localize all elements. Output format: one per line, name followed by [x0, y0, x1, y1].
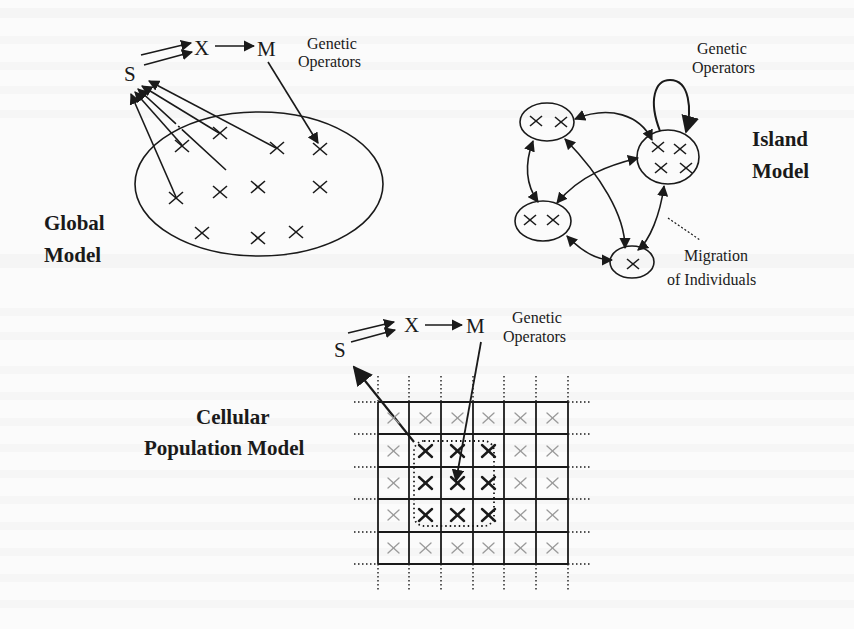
- global-model-title-1: Global: [44, 211, 105, 235]
- individual-marker: [270, 142, 284, 154]
- cell-grid: [378, 402, 568, 564]
- neighborhood-individual: [419, 477, 432, 489]
- neighborhood-individual: [482, 477, 495, 489]
- global-model-panel: [131, 43, 383, 256]
- individual-marker: [213, 186, 227, 198]
- individual-marker: [674, 144, 686, 154]
- cellular-op-s: S: [334, 338, 346, 362]
- cell-individual: [515, 478, 526, 488]
- global-individuals: [169, 127, 327, 244]
- individual-marker: [680, 163, 692, 173]
- migration-label-1: Migration: [684, 247, 748, 265]
- individual-marker: [555, 117, 567, 127]
- island-ops-label-1: Genetic: [697, 40, 747, 57]
- island-model-title-1: Island: [752, 127, 808, 151]
- individual-marker: [213, 127, 227, 139]
- cellular-ops-label-1: Genetic: [512, 309, 562, 326]
- individual-marker: [251, 181, 265, 193]
- island-top-left: [520, 103, 574, 141]
- individual-marker: [547, 215, 559, 225]
- migration-label-2: of Individuals: [667, 271, 756, 288]
- island-model-panel: [515, 80, 700, 278]
- individual-marker: [251, 232, 265, 244]
- cellular-ops-label-2: Operators: [503, 328, 566, 346]
- global-model-title-2: Model: [44, 243, 101, 267]
- individual-marker: [524, 215, 536, 225]
- global-op-s: S: [124, 62, 136, 86]
- individual-marker: [652, 142, 664, 152]
- cell-individual: [547, 510, 558, 520]
- cell-individual: [388, 510, 399, 520]
- global-op-x: X: [194, 36, 209, 60]
- cell-individual: [388, 478, 399, 488]
- global-ops-label-1: Genetic: [307, 35, 357, 52]
- island-right: [637, 130, 699, 184]
- island-left: [515, 201, 571, 241]
- cellular-model-title-1: Cellular: [196, 405, 270, 429]
- neighborhood-individual: [451, 477, 464, 489]
- neighborhood-individual: [451, 509, 464, 521]
- individual-marker: [289, 226, 303, 238]
- island-model-title-2: Model: [752, 159, 809, 183]
- neighborhood-individual: [419, 509, 432, 521]
- individual-marker: [655, 163, 667, 173]
- neighborhood-individual: [482, 509, 495, 521]
- global-op-m: M: [257, 37, 276, 61]
- individual-marker: [175, 140, 189, 152]
- cellular-model-title-2: Population Model: [144, 436, 305, 460]
- island-individuals: [524, 116, 692, 269]
- individual-marker: [169, 192, 183, 204]
- evolutionary-models-diagram: S X M Genetic Operators Global Model Gen…: [0, 0, 854, 629]
- individual-marker: [195, 227, 209, 239]
- cell-individual: [515, 510, 526, 520]
- cell-individual: [547, 478, 558, 488]
- individual-marker: [313, 181, 327, 193]
- individual-marker: [313, 143, 327, 155]
- cellular-op-x: X: [404, 313, 419, 337]
- cellular-op-m: M: [466, 314, 485, 338]
- global-ops-label-2: Operators: [298, 53, 361, 71]
- island-ops-label-2: Operators: [692, 59, 755, 77]
